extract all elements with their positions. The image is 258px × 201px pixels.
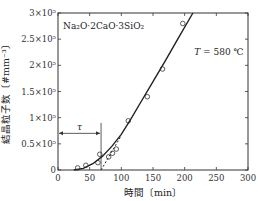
temperature-annotation: T = 580 ℃: [194, 47, 243, 57]
y-tick-labels: 00.5×10⁵1×10⁵1.5×10⁵2×10⁵2.5×10⁵3×10⁵: [21, 8, 56, 175]
svg-text:250: 250: [208, 173, 224, 183]
composition-annotation: Na₂O·2CaO·3SiO₂: [63, 21, 144, 31]
svg-text:2.5×10⁵: 2.5×10⁵: [21, 34, 56, 44]
svg-text:0.5×10⁵: 0.5×10⁵: [21, 139, 56, 149]
svg-text:200: 200: [177, 173, 193, 183]
svg-text:2×10⁵: 2×10⁵: [29, 60, 56, 70]
svg-text:50: 50: [84, 173, 95, 183]
plot-frame: [58, 13, 248, 170]
crystal-count-chart: 050100150200250300 00.5×10⁵1×10⁵1.5×10⁵2…: [0, 0, 258, 201]
svg-text:1×10⁵: 1×10⁵: [29, 113, 56, 123]
svg-text:1.5×10⁵: 1.5×10⁵: [21, 87, 56, 97]
svg-text:100: 100: [113, 173, 129, 183]
svg-text:3×10⁵: 3×10⁵: [29, 8, 56, 18]
data-series: [74, 13, 193, 170]
y-axis-title: 結晶粒子数〔#mm⁻³〕: [0, 39, 11, 144]
axis-ticks: [58, 13, 248, 170]
tau-label: τ: [77, 122, 83, 132]
svg-text:0: 0: [51, 165, 56, 175]
svg-text:0: 0: [55, 173, 60, 183]
svg-text:300: 300: [240, 173, 256, 183]
svg-text:150: 150: [145, 173, 161, 183]
x-axis-title: 時間〔min〕: [124, 187, 182, 198]
x-tick-labels: 050100150200250300: [55, 173, 256, 183]
